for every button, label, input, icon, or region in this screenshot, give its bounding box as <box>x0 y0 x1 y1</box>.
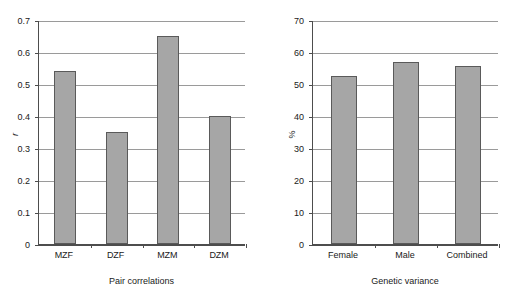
y-tick-label: 40 <box>294 113 304 122</box>
bar-female <box>331 76 357 244</box>
y-tick-mark <box>309 53 313 54</box>
y-tick-mark <box>309 181 313 182</box>
x-tick-mark <box>375 244 376 248</box>
y-tick-label: 0.7 <box>17 17 30 26</box>
bar-mzm <box>157 36 179 244</box>
bar-combined <box>455 66 481 244</box>
y-axis-ticks-right: 010203040506070 <box>278 21 304 245</box>
y-tick-mark <box>309 117 313 118</box>
y-tick-mark <box>309 245 313 246</box>
y-tick-label: 0.3 <box>17 145 30 154</box>
x-category-label: DZM <box>193 250 245 260</box>
x-category-label: Male <box>374 250 436 260</box>
y-tick-label: 0.1 <box>17 209 30 218</box>
gridline <box>313 53 498 54</box>
y-tick-label: 30 <box>294 145 304 154</box>
gridline <box>39 53 245 54</box>
y-tick-mark <box>35 181 39 182</box>
y-tick-mark <box>35 149 39 150</box>
x-category-label: Combined <box>436 250 498 260</box>
bar-mzf <box>54 71 76 244</box>
y-tick-label: 50 <box>294 81 304 90</box>
plot-area-left <box>38 21 245 245</box>
x-tick-mark <box>194 244 195 248</box>
y-tick-label: 20 <box>294 177 304 186</box>
x-tick-mark <box>499 244 500 248</box>
y-tick-mark <box>35 53 39 54</box>
y-tick-label: 70 <box>294 17 304 26</box>
y-tick-label: 60 <box>294 49 304 58</box>
x-tick-mark <box>246 244 247 248</box>
x-tick-mark <box>91 244 92 248</box>
x-category-label: MZF <box>38 250 90 260</box>
y-tick-label: 0.4 <box>17 113 30 122</box>
y-tick-mark <box>35 21 39 22</box>
x-category-label: Female <box>312 250 374 260</box>
x-axis-title-right: Genetic variance <box>312 276 498 286</box>
figure: r 00.10.20.30.40.50.60.7 MZFDZFMZMDZM Pa… <box>0 0 506 301</box>
y-tick-label: 0 <box>299 241 304 250</box>
y-tick-label: 0.5 <box>17 81 30 90</box>
bar-dzm <box>209 116 231 244</box>
y-tick-mark <box>309 149 313 150</box>
bar-dzf <box>106 132 128 244</box>
gridline <box>313 21 498 22</box>
y-tick-label: 0 <box>25 241 30 250</box>
gridline <box>39 21 245 22</box>
y-axis-ticks-left: 00.10.20.30.40.50.60.7 <box>4 21 30 245</box>
bar-male <box>393 62 419 244</box>
y-tick-mark <box>309 85 313 86</box>
chart-panel-genetic-variance: % 010203040506070 FemaleMaleCombined Gen… <box>253 0 506 301</box>
gridline <box>313 245 498 246</box>
y-tick-mark <box>35 245 39 246</box>
x-category-label: MZM <box>142 250 194 260</box>
y-tick-mark <box>309 213 313 214</box>
y-tick-mark <box>35 213 39 214</box>
x-category-label: DZF <box>90 250 142 260</box>
chart-panel-pair-correlations: r 00.10.20.30.40.50.60.7 MZFDZFMZMDZM Pa… <box>0 0 253 301</box>
y-tick-label: 10 <box>294 209 304 218</box>
y-tick-label: 0.6 <box>17 49 30 58</box>
x-tick-mark <box>437 244 438 248</box>
plot-area-right <box>312 21 498 245</box>
y-tick-mark <box>35 85 39 86</box>
x-tick-mark <box>143 244 144 248</box>
x-axis-title-left: Pair correlations <box>38 276 245 286</box>
y-tick-mark <box>309 21 313 22</box>
y-tick-label: 0.2 <box>17 177 30 186</box>
y-tick-mark <box>35 117 39 118</box>
